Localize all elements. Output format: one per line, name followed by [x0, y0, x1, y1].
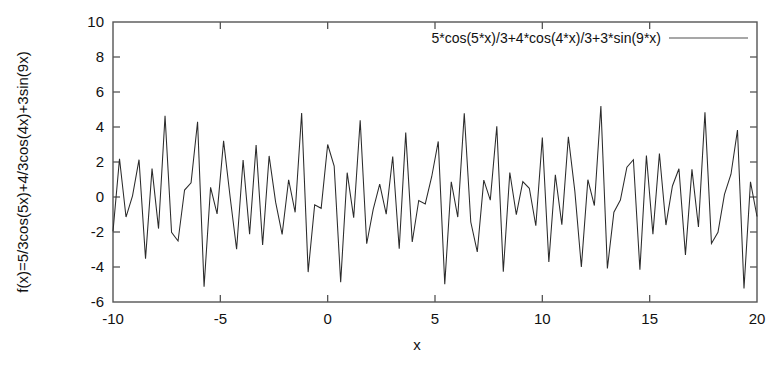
legend-entry-label: 5*cos(5*x)/3+4*cos(4*x)/3+3*sin(9*x) — [431, 30, 661, 46]
x-axis-title: x — [413, 336, 421, 353]
x-tick-label: 15 — [641, 310, 658, 327]
y-tick-label: 2 — [96, 153, 104, 170]
plot-figure: -10-505101520 -6-4-20246810 5*cos(5*x)/3… — [0, 0, 780, 368]
x-tick-label: -10 — [102, 310, 124, 327]
y-tick-label: 10 — [87, 13, 104, 30]
y-tick-label: -2 — [91, 223, 104, 240]
x-tick-label: 0 — [323, 310, 331, 327]
x-tick-label: 20 — [749, 310, 766, 327]
y-tick-label: -6 — [91, 293, 104, 310]
x-tick-label: 5 — [431, 310, 439, 327]
y-axis-title: f(x)=5/3cos(5x)+4/3cos(4x)+3sin(9x) — [14, 51, 31, 292]
y-tick-label: 4 — [96, 118, 104, 135]
y-tick-label: -4 — [91, 258, 104, 275]
x-tick-label: -5 — [214, 310, 227, 327]
y-tick-label: 6 — [96, 83, 104, 100]
y-tick-label: 8 — [96, 48, 104, 65]
y-tick-label: 0 — [96, 188, 104, 205]
x-tick-label: 10 — [534, 310, 551, 327]
